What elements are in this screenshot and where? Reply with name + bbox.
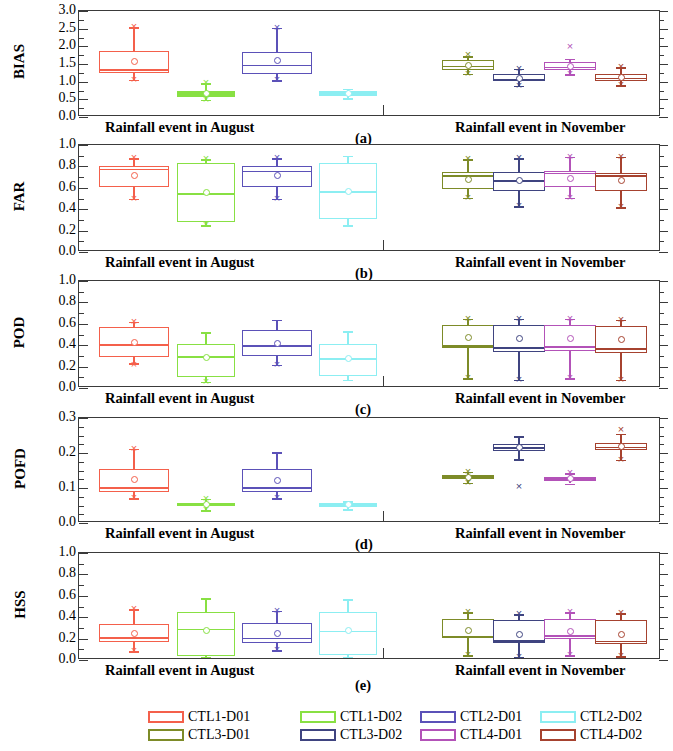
y-tick-label: 0.4 bbox=[59, 609, 77, 623]
legend-label: CTL2-D02 bbox=[580, 709, 642, 725]
outlier-marker: × bbox=[201, 220, 211, 229]
outlier-marker: × bbox=[514, 652, 524, 661]
whisker-upper bbox=[347, 599, 349, 612]
y-tick-major bbox=[79, 324, 88, 325]
x-axis-center-tick bbox=[383, 376, 384, 387]
median-line bbox=[242, 487, 312, 489]
y-tick-major bbox=[79, 574, 88, 575]
outlier-marker: × bbox=[616, 152, 626, 161]
y-tick-minor bbox=[79, 356, 84, 357]
outlier-marker: × bbox=[272, 75, 282, 84]
whisker-cap-lower bbox=[514, 459, 524, 461]
outlier-marker: × bbox=[565, 193, 575, 202]
legend-swatch-CTL1-D01 bbox=[148, 711, 184, 723]
outlier-marker: × bbox=[565, 152, 575, 161]
legend-swatch-CTL1-D02 bbox=[300, 711, 336, 723]
y-tick-minor bbox=[79, 427, 84, 428]
y-tick-label: 0.2 bbox=[59, 445, 77, 459]
whisker-cap-upper bbox=[514, 436, 524, 438]
y-tick-minor-right bbox=[659, 377, 664, 378]
y-tick-minor-right bbox=[659, 444, 664, 445]
median-line bbox=[442, 636, 494, 638]
y-axis-title-text: FAR bbox=[12, 181, 29, 211]
y-tick-major-right bbox=[659, 82, 668, 83]
outlier-marker: × bbox=[616, 425, 626, 434]
outlier-marker: × bbox=[129, 444, 139, 453]
outlier-marker: × bbox=[272, 194, 282, 203]
y-axis-title-POD: POD bbox=[0, 324, 40, 341]
y-tick-major bbox=[79, 82, 88, 83]
median-line bbox=[544, 346, 596, 348]
whisker-upper bbox=[347, 331, 349, 344]
y-tick-minor bbox=[79, 471, 84, 472]
median-line bbox=[99, 487, 169, 489]
outlier-marker: × bbox=[201, 95, 211, 104]
y-tick-minor-right bbox=[659, 20, 664, 21]
outlier-marker: × bbox=[201, 154, 211, 163]
outlier-marker: × bbox=[129, 493, 139, 502]
y-tick-major bbox=[79, 617, 88, 618]
mean-marker bbox=[203, 627, 210, 634]
y-tick-minor-right bbox=[659, 427, 664, 428]
y-tick-minor-right bbox=[659, 506, 664, 507]
whisker-upper bbox=[276, 320, 278, 331]
mean-marker bbox=[131, 476, 138, 483]
y-tick-major-right bbox=[659, 574, 668, 575]
mean-marker bbox=[131, 339, 138, 346]
y-tick-minor-right bbox=[659, 479, 664, 480]
y-tick-label: 1.0 bbox=[59, 273, 77, 287]
y-tick-major-right bbox=[659, 99, 668, 100]
y-tick-minor bbox=[79, 108, 84, 109]
legend-label: CTL1-D01 bbox=[188, 709, 250, 725]
outlier-marker: × bbox=[463, 478, 473, 487]
mean-marker bbox=[203, 189, 210, 196]
whisker-upper bbox=[276, 452, 278, 469]
mean-marker bbox=[618, 631, 625, 638]
median-line bbox=[99, 69, 169, 71]
mean-marker bbox=[516, 444, 523, 451]
legend-label: CTL3-D01 bbox=[188, 727, 250, 743]
y-tick-minor bbox=[79, 479, 84, 480]
y-tick-major bbox=[79, 252, 88, 253]
mean-marker bbox=[345, 501, 352, 508]
mean-marker bbox=[274, 57, 281, 64]
outlier-marker: × bbox=[272, 493, 282, 502]
y-tick-major-right bbox=[659, 617, 668, 618]
outlier-marker: × bbox=[463, 314, 473, 323]
outlier-marker: × bbox=[514, 375, 524, 384]
y-tick-label: 1.0 bbox=[59, 545, 77, 559]
outlier-marker: × bbox=[616, 608, 626, 617]
mean-marker bbox=[567, 175, 574, 182]
y-axis-title-HSS: HSS bbox=[0, 596, 40, 613]
y-tick-minor-right bbox=[659, 462, 664, 463]
median-line bbox=[242, 638, 312, 640]
y-tick-minor bbox=[79, 506, 84, 507]
outlier-marker: × bbox=[463, 193, 473, 202]
y-tick-major bbox=[79, 209, 88, 210]
mean-marker bbox=[465, 334, 472, 341]
outlier-marker: × bbox=[463, 154, 473, 163]
y-tick-label: 2.5 bbox=[59, 21, 77, 35]
y-tick-label: 0.8 bbox=[59, 158, 77, 172]
outlier-marker: × bbox=[514, 81, 524, 90]
y-tick-minor bbox=[79, 156, 84, 157]
y-axis-title-text: HSS bbox=[11, 590, 28, 618]
y-tick-label: 0.0 bbox=[59, 244, 77, 258]
y-tick-minor bbox=[79, 628, 84, 629]
y-tick-major bbox=[79, 281, 88, 282]
y-tick-major bbox=[79, 523, 88, 524]
whisker-cap-lower bbox=[343, 657, 353, 659]
y-tick-major-right bbox=[659, 523, 668, 524]
y-tick-minor-right bbox=[659, 628, 664, 629]
y-tick-major-right bbox=[659, 11, 668, 12]
outlier-marker: × bbox=[616, 375, 626, 384]
y-tick-minor bbox=[79, 436, 84, 437]
whisker-cap-upper bbox=[272, 320, 282, 322]
outlier-marker: × bbox=[201, 505, 211, 514]
mean-marker bbox=[567, 628, 574, 635]
panel-letter-e: (e) bbox=[355, 677, 371, 694]
group-label-november: Rainfall event in November bbox=[455, 254, 625, 271]
x-axis-center-tick bbox=[383, 511, 384, 522]
y-axis-title-text: POFD bbox=[12, 448, 29, 489]
y-tick-label: 0.0 bbox=[59, 380, 77, 394]
